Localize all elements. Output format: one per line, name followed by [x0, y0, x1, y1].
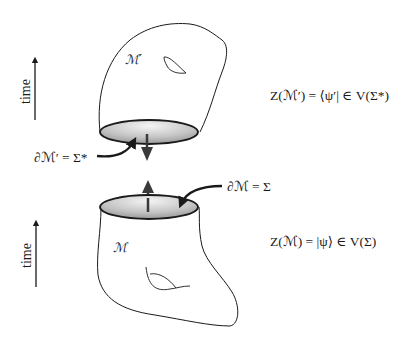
upper-boundary-label: ∂ℳ′ = Σ* — [34, 149, 88, 166]
time-label-lower: time — [19, 243, 35, 268]
lower-manifold-surface — [98, 195, 238, 326]
tqft-gluing-diagram: time time ℳ′ ℳ ∂ℳ′ = Σ* ∂ℳ = Σ Z(ℳ′) = ⟨… — [0, 0, 414, 346]
lower-partition-formula: Z(ℳ) = |ψ⟩ ∈ V(Σ) — [270, 233, 376, 250]
upper-manifold-surface — [99, 24, 226, 144]
lower-manifold-label: ℳ — [113, 240, 127, 255]
diagram-drawing — [0, 0, 414, 346]
upper-manifold-label: ℳ′ — [125, 52, 142, 67]
time-label-upper: time — [18, 79, 34, 104]
lower-boundary-label: ∂ℳ = Σ — [227, 178, 271, 195]
upper-partition-formula: Z(ℳ′) = ⟨ψ′| ∈ V(Σ*) — [270, 87, 389, 104]
